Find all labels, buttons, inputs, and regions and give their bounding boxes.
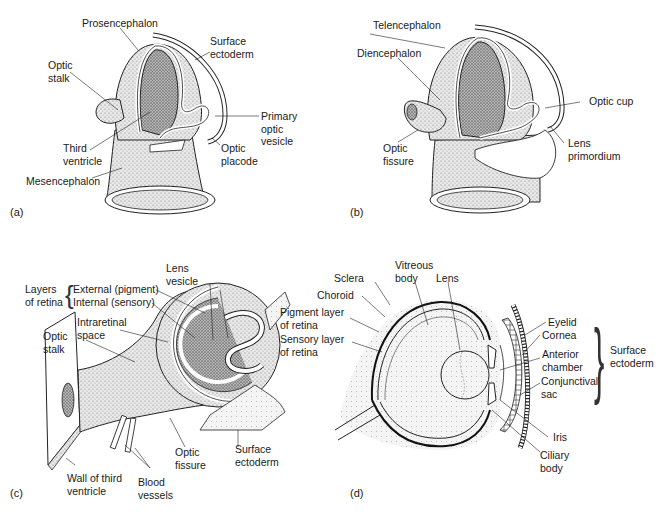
label-vitreous-body: Vitreous body xyxy=(395,259,433,284)
label-line: Third xyxy=(63,142,102,155)
label-line: Vitreous xyxy=(395,259,433,272)
label-line: Surface xyxy=(610,344,654,357)
label-optic-cup: Optic cup xyxy=(589,95,633,108)
label-line: Blood xyxy=(138,476,173,489)
label-line: Pigment layer xyxy=(280,306,344,319)
label-line: Optic xyxy=(43,330,68,343)
label-lens-primordium: Lens primordium xyxy=(568,137,621,162)
label-layers-of-retina: Layers of retina xyxy=(25,283,63,308)
label-line: Ciliary xyxy=(540,449,569,462)
label-line: vesicle xyxy=(261,135,297,148)
label-conjunctival-sac: Conjunctival sac xyxy=(541,375,598,400)
label-line: of retina xyxy=(280,346,344,359)
label-line: Sensory layer xyxy=(280,333,344,346)
label-line: Lens xyxy=(166,262,198,275)
panel-c-drawing xyxy=(45,283,290,470)
label-cornea: Cornea xyxy=(542,329,576,342)
label-line: Surface xyxy=(235,443,279,456)
label-line: Optic xyxy=(175,446,206,459)
label-primary-optic-vesicle: Primary optic vesicle xyxy=(261,110,297,148)
label-line: Conjunctival xyxy=(541,375,598,388)
label-internal-sensory: Internal (sensory) xyxy=(73,296,159,309)
label-line: chamber xyxy=(542,361,583,374)
label-line: stalk xyxy=(43,343,68,356)
label-line: of retina xyxy=(25,296,63,309)
label-choroid: Choroid xyxy=(317,289,354,302)
label-line: primordium xyxy=(568,150,621,163)
eye-development-illustration xyxy=(0,0,670,517)
label-surface-ectoderm-d: Surface ectoderm xyxy=(610,344,654,369)
label-line: ventricle xyxy=(63,155,102,168)
label-line: sac xyxy=(541,388,598,401)
label-optic-fissure-b: Optic fissure xyxy=(383,142,414,167)
label-line: Lens xyxy=(568,137,621,150)
label-sclera: Sclera xyxy=(334,272,364,285)
label-line: Anterior xyxy=(542,348,583,361)
label-blood-vessels: Blood vessels xyxy=(138,476,173,501)
label-pigment-layer: Pigment layer of retina xyxy=(280,306,344,331)
label-prosencephalon: Prosencephalon xyxy=(82,17,158,30)
label-surface-ectoderm-a: Surface ectoderm xyxy=(210,35,254,60)
label-optic-fissure-c: Optic fissure xyxy=(175,446,206,471)
label-line: Primary xyxy=(261,110,297,123)
label-wall-third-ventricle: Wall of third ventricle xyxy=(67,472,122,497)
panel-letter-c: (c) xyxy=(10,487,23,499)
label-line: ectoderm xyxy=(235,456,279,469)
label-line: Wall of third xyxy=(67,472,122,485)
panel-letter-b: (b) xyxy=(350,206,363,218)
label-line: ectoderm xyxy=(610,357,654,370)
label-iris: Iris xyxy=(553,431,567,444)
label-intraretinal-space: Intraretinal space xyxy=(77,316,127,341)
label-line: ventricle xyxy=(67,485,122,498)
label-line: space xyxy=(77,329,127,342)
label-lens-vesicle: Lens vesicle xyxy=(166,262,198,287)
label-lens-d: Lens xyxy=(436,272,459,285)
label-line: body xyxy=(540,462,569,475)
label-line: vessels xyxy=(138,489,173,502)
label-line: body xyxy=(395,272,433,285)
label-line: stalk xyxy=(48,72,73,85)
label-line: fissure xyxy=(175,459,206,472)
panel-d-drawing xyxy=(335,282,548,452)
label-line: Layers xyxy=(25,283,63,296)
label-line: fissure xyxy=(383,155,414,168)
label-line: Intraretinal xyxy=(77,316,127,329)
label-retina-layers-list: External (pigment) Internal (sensory) xyxy=(73,283,159,308)
panel-letter-a: (a) xyxy=(10,206,23,218)
label-line: ectoderm xyxy=(210,48,254,61)
label-line: Optic xyxy=(383,142,414,155)
label-surface-ectoderm-c: Surface ectoderm xyxy=(235,443,279,468)
label-line: vesicle xyxy=(166,275,198,288)
label-external-pigment: External (pigment) xyxy=(73,283,159,296)
label-anterior-chamber: Anterior chamber xyxy=(542,348,583,373)
label-diencephalon: Diencephalon xyxy=(357,47,421,60)
label-optic-stalk-a: Optic stalk xyxy=(48,59,73,84)
label-third-ventricle: Third ventricle xyxy=(63,142,102,167)
label-line: of retina xyxy=(280,319,344,332)
label-telencephalon: Telencephalon xyxy=(373,19,441,32)
label-line: optic xyxy=(261,123,297,136)
label-sensory-layer: Sensory layer of retina xyxy=(280,333,344,358)
panel-letter-d: (d) xyxy=(350,487,363,499)
label-line: Optic xyxy=(221,142,258,155)
label-line: Surface xyxy=(210,35,254,48)
label-ciliary-body: Ciliary body xyxy=(540,449,569,474)
label-mesencephalon: Mesencephalon xyxy=(26,175,100,188)
label-line: Optic xyxy=(48,59,73,72)
surface-ectoderm-brace: } xyxy=(594,318,604,402)
label-eyelid: Eyelid xyxy=(548,316,577,329)
label-optic-placode: Optic placode xyxy=(221,142,258,167)
label-line: placode xyxy=(221,155,258,168)
label-optic-stalk-c: Optic stalk xyxy=(43,330,68,355)
